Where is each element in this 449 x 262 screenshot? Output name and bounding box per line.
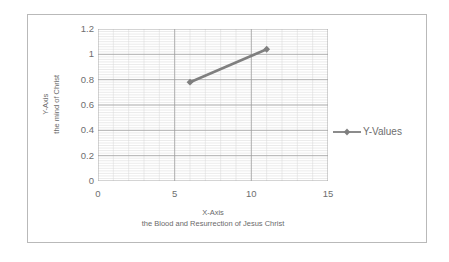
x-axis-title-line2: the Blood and Resurrection of Jesus Chri… (83, 218, 343, 229)
x-axis-title-line1: X-Axis (83, 207, 343, 218)
y-axis-title-line1: Y-Axis (40, 34, 51, 174)
y-axis-title-line2: the mind of Christ (51, 34, 62, 174)
plot-area (98, 29, 328, 181)
chart-figure: 00.20.40.60.811.2 051015 X-Axis the Bloo… (0, 0, 449, 262)
y-axis-tick-labels: 00.20.40.60.811.2 (66, 29, 94, 181)
y-tick-label: 0.6 (81, 100, 94, 110)
x-tick-label: 10 (246, 189, 257, 199)
legend-label-y-values: Y-Values (363, 127, 402, 137)
legend-line-marker-icon (333, 127, 361, 137)
y-tick-label: 0 (89, 176, 94, 186)
chart-legend: Y-Values (333, 127, 402, 137)
chart-frame: 00.20.40.60.811.2 051015 X-Axis the Bloo… (27, 14, 427, 243)
x-tick-label: 5 (172, 189, 177, 199)
x-tick-label: 15 (323, 189, 334, 199)
y-tick-label: 0.2 (81, 151, 94, 161)
y-tick-label: 1 (89, 50, 94, 60)
x-axis-tick-labels: 051015 (98, 189, 328, 203)
y-tick-label: 0.4 (81, 126, 94, 136)
x-axis-title: X-Axis the Blood and Resurrection of Jes… (83, 207, 343, 230)
x-tick-label: 0 (95, 189, 100, 199)
y-tick-label: 1.2 (81, 24, 94, 34)
y-axis-title: Y-Axis the mind of Christ (40, 34, 63, 174)
plot-canvas (98, 29, 328, 181)
y-tick-label: 0.8 (81, 75, 94, 85)
